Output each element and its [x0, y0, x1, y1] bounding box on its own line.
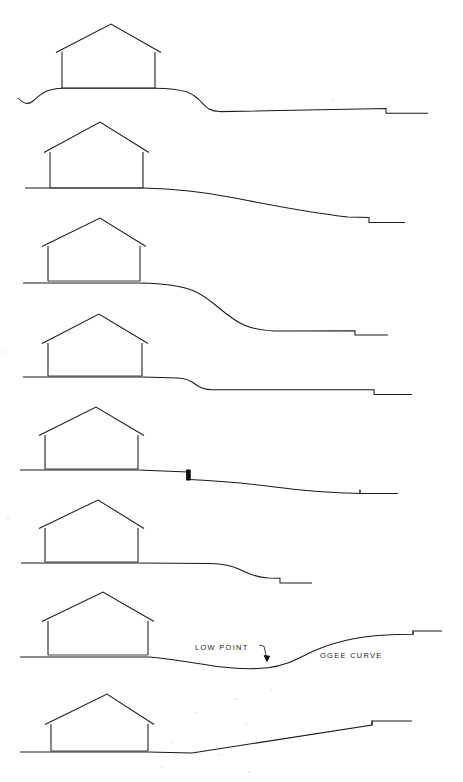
section-3-house-outline — [42, 218, 146, 281]
section-1-house-outline — [56, 24, 161, 88]
section-8-house-outline — [45, 694, 154, 751]
section-5 — [20, 407, 398, 494]
ogee-curve-label: OGEE CURVE — [320, 651, 383, 660]
section-7: LOW POINT OGEE CURVE — [20, 592, 442, 669]
section-3-grade-line — [23, 283, 388, 335]
section-1-grade-line — [18, 88, 428, 113]
section-4 — [23, 314, 412, 395]
low-point-arrowhead — [264, 656, 269, 662]
section-7-house-outline — [42, 592, 154, 655]
section-2 — [25, 122, 405, 223]
section-2-house-outline — [44, 122, 149, 188]
section-5-grade-line-lower — [190, 480, 398, 494]
section-8-grade-line — [20, 721, 412, 753]
paper-grain — [4, 99, 333, 773]
section-8 — [20, 694, 412, 753]
section-5-retaining-wall — [187, 470, 191, 480]
section-4-grade-line — [23, 377, 412, 395]
site-sections-drawing: LOW POINT OGEE CURVE — [0, 0, 463, 782]
drawing-sheet: LOW POINT OGEE CURVE — [0, 0, 463, 782]
section-5-house-outline — [39, 407, 144, 469]
low-point-label: LOW POINT — [195, 643, 249, 652]
section-1 — [18, 24, 428, 113]
section-6-grade-line — [21, 563, 312, 583]
section-3 — [23, 218, 388, 335]
section-2-grade-line — [25, 188, 405, 223]
section-5-grade-line-upper — [20, 470, 188, 472]
section-6-house-outline — [39, 500, 144, 562]
section-4-house-outline — [42, 314, 148, 376]
section-6 — [21, 500, 312, 583]
